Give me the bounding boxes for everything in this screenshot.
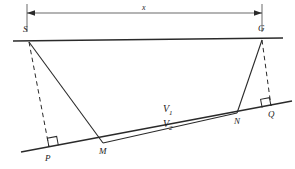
geometry-figure: x S G P M N Q V1 V2 xyxy=(0,0,295,169)
interface-line xyxy=(21,101,292,152)
dimension-arrow-left xyxy=(27,10,35,16)
ray-segment-n-g xyxy=(237,40,262,113)
point-label-m: M xyxy=(99,147,107,156)
velocity-label-v1: V1 xyxy=(163,104,173,117)
point-label-q: Q xyxy=(268,110,275,119)
point-label-n: N xyxy=(234,117,240,126)
point-label-p: P xyxy=(45,154,51,163)
perpendicular-s-p xyxy=(29,42,49,147)
dimension-label-x: x xyxy=(142,4,146,12)
point-label-g: G xyxy=(258,24,265,33)
perpendicular-g-q xyxy=(262,40,271,106)
ray-segment-s-m xyxy=(29,42,103,143)
figure-canvas xyxy=(0,0,295,169)
velocity-v2-sub: 2 xyxy=(169,124,173,132)
surface-line xyxy=(13,38,283,41)
dimension-arrow-right xyxy=(254,10,262,16)
velocity-v1-sub: 1 xyxy=(169,109,173,117)
point-label-s: S xyxy=(23,25,28,34)
velocity-label-v2: V2 xyxy=(163,119,173,132)
